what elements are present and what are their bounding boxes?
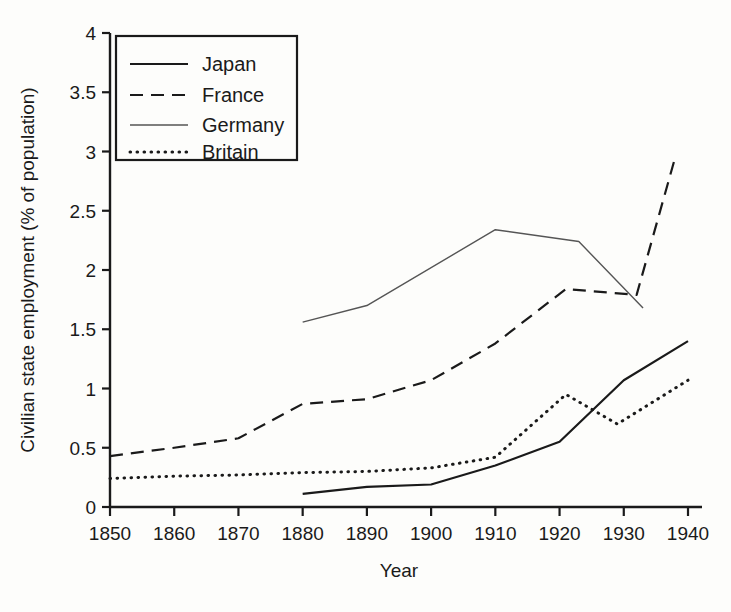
x-tick-label-1910: 1910 (474, 523, 516, 544)
y-tick-label-3: 3 (85, 142, 96, 163)
legend-label-germany: Germany (202, 114, 284, 136)
x-axis-title: Year (380, 560, 419, 581)
x-tick-label-1880: 1880 (282, 523, 324, 544)
y-tick-label-0: 0 (85, 497, 96, 518)
x-tick-label-1930: 1930 (603, 523, 645, 544)
y-tick-label-4: 4 (85, 23, 96, 44)
legend-label-japan: Japan (202, 53, 257, 75)
x-tick-label-1920: 1920 (538, 523, 580, 544)
y-tick-label-2: 2 (85, 260, 96, 281)
y-tick-label-3.5: 3.5 (70, 82, 96, 103)
x-tick-label-1860: 1860 (153, 523, 195, 544)
x-tick-label-1900: 1900 (410, 523, 452, 544)
y-axis-title: Civilian state employment (% of populati… (17, 87, 38, 452)
x-tick-label-1940: 1940 (667, 523, 709, 544)
legend-label-france: France (202, 84, 264, 106)
y-tick-label-1: 1 (85, 379, 96, 400)
x-tick-label-1850: 1850 (89, 523, 131, 544)
chart-canvas: 00.511.522.533.54 1850186018701880189019… (0, 0, 731, 612)
x-tick-label-1870: 1870 (217, 523, 259, 544)
y-tick-label-2.5: 2.5 (70, 201, 96, 222)
line-chart: 00.511.522.533.54 1850186018701880189019… (0, 0, 731, 612)
legend-label-britain: Britain (202, 141, 259, 163)
y-tick-label-1.5: 1.5 (70, 319, 96, 340)
y-tick-label-0.5: 0.5 (70, 438, 96, 459)
chart-legend: JapanFranceGermanyBritain (116, 36, 297, 163)
x-tick-label-1890: 1890 (346, 523, 388, 544)
